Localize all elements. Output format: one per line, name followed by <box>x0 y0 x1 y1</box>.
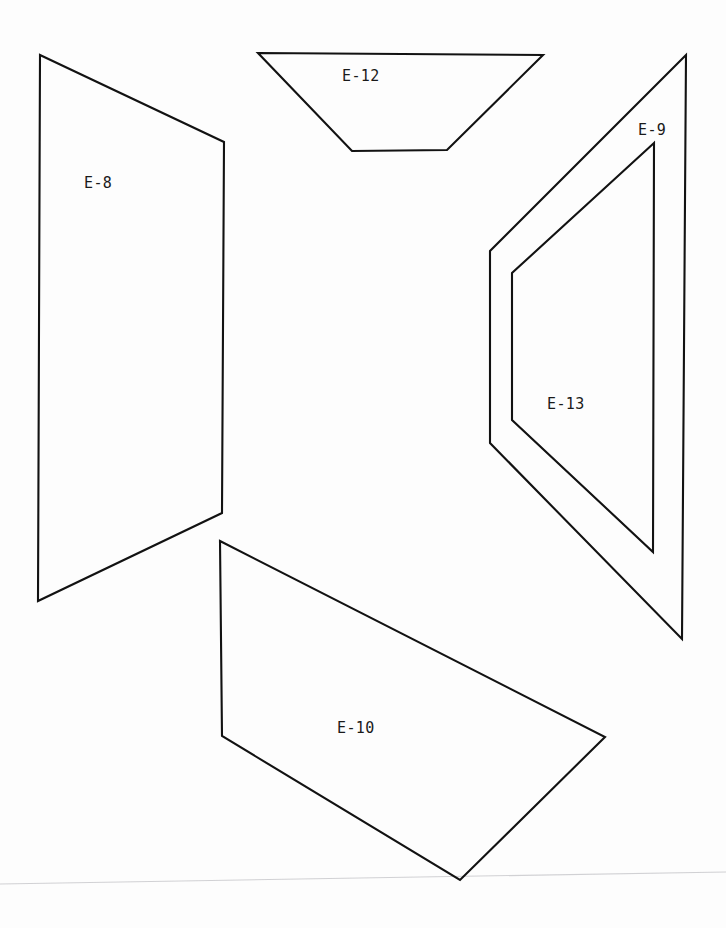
diagram-canvas: E-8 E-12 E-9 E-13 E-10 <box>0 0 726 928</box>
panel-layout-drawing <box>0 0 726 928</box>
panel-label-e-10: E-10 <box>337 719 375 737</box>
panel-label-e-12: E-12 <box>342 67 380 85</box>
panel-label-e-9: E-9 <box>638 121 666 139</box>
panel-label-e-13: E-13 <box>547 395 585 413</box>
paper-background <box>0 0 726 928</box>
panel-label-e-8: E-8 <box>84 174 112 192</box>
